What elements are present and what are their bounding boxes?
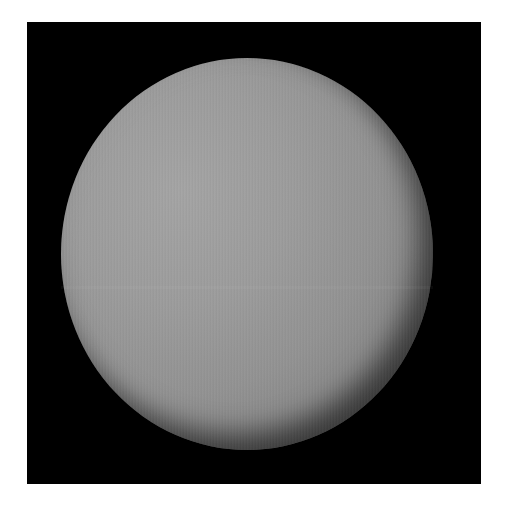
image-frame bbox=[27, 22, 481, 484]
equatorial-band bbox=[61, 286, 433, 289]
planet-disk bbox=[61, 58, 433, 450]
